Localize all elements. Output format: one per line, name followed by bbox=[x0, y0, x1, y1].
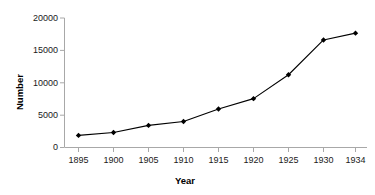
x-tick-label-1925: 1925 bbox=[269, 155, 309, 165]
data-point-marker bbox=[76, 133, 81, 138]
data-point-marker bbox=[181, 119, 186, 124]
data-series-line bbox=[79, 33, 356, 135]
y-tick-label-0: 0 bbox=[14, 142, 58, 152]
chart-plot-area bbox=[0, 0, 375, 195]
x-tick-label-1920: 1920 bbox=[234, 155, 274, 165]
y-axis-title: Number bbox=[14, 74, 25, 110]
x-axis-ticks bbox=[79, 148, 356, 153]
x-tick-label-1905: 1905 bbox=[129, 155, 169, 165]
data-point-marker bbox=[353, 30, 358, 35]
y-tick-label-15000: 15000 bbox=[14, 45, 58, 55]
data-series-markers bbox=[76, 30, 358, 138]
line-chart: 20000 15000 10000 5000 0 1895 1900 1905 … bbox=[0, 0, 375, 195]
data-point-marker bbox=[216, 106, 221, 111]
y-axis-ticks bbox=[60, 18, 65, 148]
x-axis-title: Year bbox=[175, 175, 195, 186]
x-tick-label-1910: 1910 bbox=[164, 155, 204, 165]
x-tick-label-1900: 1900 bbox=[94, 155, 134, 165]
data-point-marker bbox=[111, 130, 116, 135]
x-tick-label-1934: 1934 bbox=[336, 155, 375, 165]
data-point-marker bbox=[146, 123, 151, 128]
x-tick-label-1915: 1915 bbox=[199, 155, 239, 165]
x-tick-label-1895: 1895 bbox=[59, 155, 99, 165]
y-tick-label-5000: 5000 bbox=[14, 110, 58, 120]
y-tick-label-20000: 20000 bbox=[14, 13, 58, 23]
